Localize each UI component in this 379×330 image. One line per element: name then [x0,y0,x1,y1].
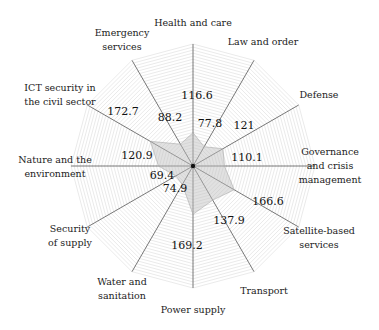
value-label: 121 [234,119,255,132]
value-label: 69.4 [150,169,175,182]
value-label: 169.2 [171,239,203,252]
axis-label: Satellite-basedservices [283,225,355,250]
radar-chart: 116.677.8121110.1166.6137.9169.274.969.4… [0,0,379,330]
axis-label: Emergencyservices [95,27,150,52]
center-dot [191,164,195,168]
value-label: 120.9 [121,149,153,162]
value-label: 110.1 [231,151,263,164]
axis-label: Governanceand crisismanagement [299,146,362,185]
axis-label: Power supply [161,304,226,315]
value-label: 116.6 [181,89,213,102]
center-point [191,164,195,168]
axis-label: Law and order [228,36,299,47]
value-label: 88.2 [158,111,183,124]
axis-label: Health and care [154,17,232,28]
axis-label: Securityof supply [48,223,92,248]
value-label: 74.9 [163,182,188,195]
value-label: 77.8 [198,117,223,130]
axis-label: ICT security inthe civil sector [24,82,96,107]
axis-label: Defense [300,89,339,100]
value-label: 166.6 [252,195,284,208]
value-label: 172.7 [107,105,139,118]
axis-label: Water andsanitation [97,276,146,301]
axis-label: Nature and theenvironment [18,154,92,179]
value-label: 137.9 [213,214,245,227]
axis-label: Transport [240,285,288,296]
